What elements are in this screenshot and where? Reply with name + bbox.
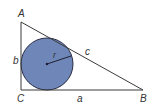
triangle-diagram: A B C a b c r: [0, 0, 152, 104]
vertex-label-c: C: [17, 93, 25, 104]
side-label-b: b: [13, 55, 19, 66]
vertex-label-b: B: [140, 93, 147, 104]
side-label-a: a: [77, 93, 83, 104]
vertex-label-a: A: [17, 8, 25, 19]
center-point: [46, 63, 49, 66]
side-label-c: c: [85, 46, 90, 57]
